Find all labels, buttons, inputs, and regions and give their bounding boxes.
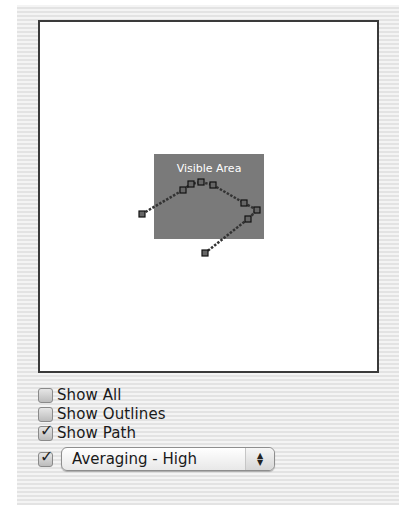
- select-stepper-icon[interactable]: ▲ ▼: [245, 448, 274, 470]
- show-outlines-checkbox[interactable]: [38, 407, 53, 422]
- averaging-checkbox[interactable]: ✓: [38, 452, 53, 467]
- checkmark-icon: ✓: [40, 423, 53, 439]
- path-point-handle[interactable]: [180, 187, 186, 193]
- path-overview: Visible Area: [40, 22, 377, 371]
- path-point-handle[interactable]: [241, 200, 247, 206]
- path-point-handle[interactable]: [139, 211, 145, 217]
- path-point-handle[interactable]: [254, 207, 260, 213]
- path-point-handle[interactable]: [245, 216, 251, 222]
- navigator-panel: Visible Area Show All Show Outlines ✓ Sh…: [17, 5, 399, 505]
- show-path-row[interactable]: ✓ Show Path: [38, 423, 136, 443]
- path-point-handle[interactable]: [198, 179, 204, 185]
- visible-area-label: Visible Area: [177, 162, 242, 175]
- path-point-handle[interactable]: [210, 182, 216, 188]
- show-outlines-label: Show Outlines: [57, 405, 166, 423]
- show-all-label: Show All: [57, 386, 122, 404]
- show-path-label: Show Path: [57, 424, 136, 442]
- stepper-down-icon: ▼: [257, 459, 263, 466]
- checkmark-icon: ✓: [40, 449, 53, 465]
- averaging-select[interactable]: Averaging - High ▲ ▼: [61, 447, 275, 471]
- show-all-row[interactable]: Show All: [38, 385, 122, 405]
- show-all-checkbox[interactable]: [38, 388, 53, 403]
- show-outlines-row[interactable]: Show Outlines: [38, 404, 166, 424]
- averaging-row: ✓ Averaging - High ▲ ▼: [38, 447, 275, 471]
- averaging-select-value: Averaging - High: [62, 450, 197, 468]
- path-point-handle[interactable]: [202, 250, 208, 256]
- overview-canvas[interactable]: Visible Area: [38, 20, 379, 373]
- path-point-handle[interactable]: [188, 181, 194, 187]
- show-path-checkbox[interactable]: ✓: [38, 426, 53, 441]
